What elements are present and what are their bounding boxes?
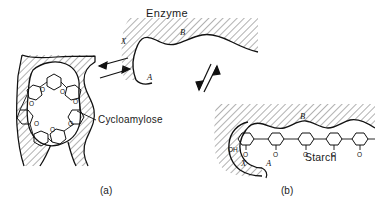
binding-site-b-panel-b: B bbox=[300, 111, 305, 121]
cycloamylose-label: Cycloamylose bbox=[98, 115, 163, 125]
oxygen-label: O bbox=[273, 151, 278, 158]
oxygen-label: O bbox=[60, 88, 65, 95]
binding-site-a-panel-a: A bbox=[147, 72, 152, 82]
starch-chain bbox=[238, 133, 375, 150]
glucose-unit bbox=[298, 133, 314, 145]
enzyme-body-panel-b bbox=[208, 100, 375, 180]
starch-label: Starch bbox=[305, 152, 337, 163]
oxygen-label: O bbox=[34, 120, 39, 127]
oxygen-label: O bbox=[50, 126, 55, 133]
equilibrium-arrows-center bbox=[196, 64, 220, 92]
binding-site-x-panel-b: X bbox=[241, 158, 246, 168]
enzyme-binding-diagram: O O O O O O O bbox=[0, 0, 375, 209]
bridge-oxygen-labels-starch: O O O O O OH bbox=[228, 146, 362, 158]
oxygen-label: O bbox=[73, 98, 78, 105]
panel-b: O O O O O OH bbox=[208, 100, 375, 180]
glucose-unit bbox=[352, 133, 368, 145]
oxygen-label: O bbox=[243, 151, 248, 158]
arrow-left-head bbox=[99, 62, 107, 69]
oxygen-label: O bbox=[40, 86, 45, 93]
panel-caption-b: (b) bbox=[281, 186, 293, 196]
oxygen-label: O bbox=[68, 120, 73, 127]
hydroxyl-label: OH bbox=[228, 146, 238, 153]
enzyme-fragment-panel-a bbox=[118, 14, 263, 84]
binding-site-b-panel-a: B bbox=[180, 27, 185, 37]
binding-site-a-panel-b: A bbox=[266, 158, 271, 168]
panel-caption-a: (a) bbox=[100, 186, 112, 196]
enzyme-label: Enzyme bbox=[146, 8, 188, 19]
glucose-unit bbox=[268, 133, 284, 145]
binding-site-x-panel-a: X bbox=[121, 36, 126, 46]
oxygen-label: O bbox=[357, 151, 362, 158]
oxygen-label: O bbox=[29, 100, 34, 107]
arrow-down-head bbox=[196, 81, 203, 90]
glucose-unit bbox=[326, 133, 342, 145]
arrow-up-head bbox=[213, 66, 220, 75]
